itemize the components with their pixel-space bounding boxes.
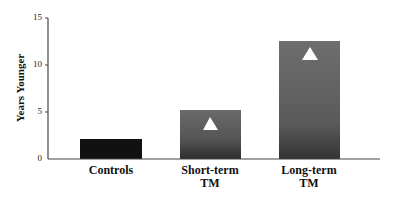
x-category-label-long-term: Long-term TM (264, 164, 354, 190)
y-tick-label: 5 (28, 106, 42, 116)
x-category-label-controls: Controls (66, 164, 156, 177)
x-category-label-short-term: Short-term TM (165, 164, 255, 190)
y-tick-label: 10 (28, 59, 42, 69)
bar-short-term-tm (180, 110, 241, 159)
y-tick-label: 15 (28, 12, 42, 22)
category-line: TM (264, 177, 354, 190)
category-line: Controls (66, 164, 156, 177)
y-tick-label: 0 (28, 153, 42, 163)
y-axis-label: Years Younger (14, 54, 26, 122)
bar-controls (80, 139, 142, 159)
category-line: TM (165, 177, 255, 190)
bar-chart: Years Younger 15 10 5 0 Controls Short-t… (0, 0, 396, 200)
